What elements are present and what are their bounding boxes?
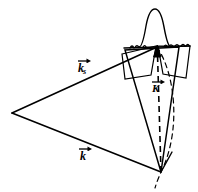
K-vector-label: K [152, 83, 159, 94]
ks-vector-label: ks [78, 62, 87, 74]
k-vector-label: k [80, 150, 86, 162]
K-vector-line [158, 54, 162, 172]
detector-left-facet [122, 46, 156, 79]
k-vector-line [12, 113, 161, 172]
ks-vector-line [12, 47, 157, 113]
diagram-canvas [0, 0, 198, 192]
K-label-symbol: K [152, 83, 159, 94]
k-label-symbol: k [80, 150, 86, 162]
bragg-peak-curve [139, 9, 171, 47]
ks-label-subscript: s [83, 67, 86, 76]
scattering-diagram-figure: ks K k [0, 0, 198, 192]
detector-right-facet [158, 46, 190, 78]
